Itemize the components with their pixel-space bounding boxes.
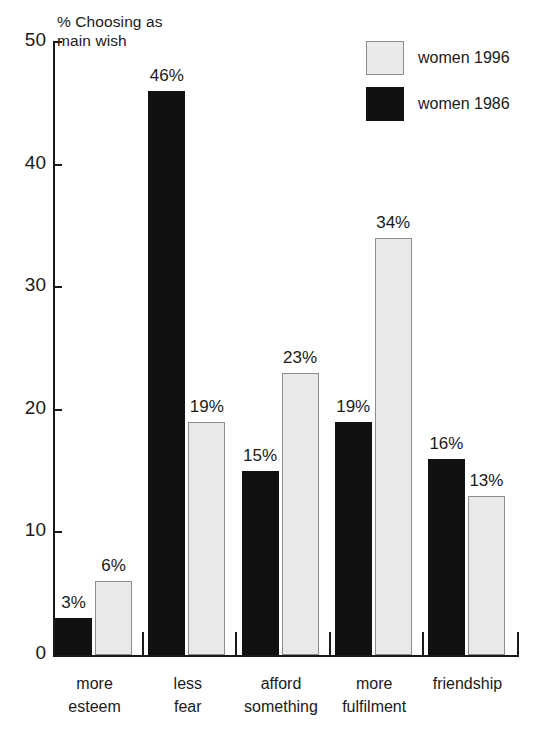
bar-value-label: 15% [243, 446, 277, 466]
legend-item: women 1986 [366, 87, 510, 121]
y-axis-tick-label: 20 [0, 397, 46, 419]
bar-women-1986 [55, 618, 92, 655]
x-axis-category-label: afford something [244, 672, 318, 718]
legend: women 1996women 1986 [366, 41, 510, 133]
bar-value-label: 19% [336, 397, 370, 417]
y-axis-tick-label: 40 [0, 152, 46, 174]
bar-women-1996 [95, 581, 132, 655]
legend-label: women 1986 [418, 95, 510, 113]
y-axis-tick-label: 50 [0, 29, 46, 51]
bar-value-label: 19% [190, 397, 224, 417]
legend-label: women 1996 [418, 49, 510, 67]
y-axis-tick-label: 30 [0, 274, 46, 296]
bar-women-1986 [335, 422, 372, 655]
bar-value-label: 23% [283, 348, 317, 368]
legend-item: women 1996 [366, 41, 510, 75]
y-axis-tick-label: 0 [0, 642, 46, 664]
x-axis-category-label: more fulfilment [342, 672, 406, 718]
bar-women-1986 [242, 471, 279, 655]
x-axis-category-label: friendship [433, 672, 502, 695]
bar-women-1996 [375, 238, 412, 655]
bar-chart: % Choosing as main wish 01020304050 3%6%… [0, 0, 534, 737]
plot-area: 3%6%46%19%15%23%19%34%16%13% [53, 42, 519, 655]
bar-women-1986 [148, 91, 185, 655]
bar-women-1986 [428, 459, 465, 655]
bar-women-1996 [468, 496, 505, 655]
bar-value-label: 34% [376, 213, 410, 233]
bar-women-1996 [282, 373, 319, 655]
bar-value-label: 46% [150, 66, 184, 86]
x-axis-category-label: less fear [174, 672, 202, 718]
x-axis-category-label: more esteem [68, 672, 120, 718]
legend-swatch-light [366, 41, 404, 75]
bar-women-1996 [188, 422, 225, 655]
legend-swatch-dark [366, 87, 404, 121]
bar-value-label: 16% [429, 434, 463, 454]
bar-value-label: 13% [469, 471, 503, 491]
bar-value-label: 3% [61, 593, 86, 613]
y-axis-tick-label: 10 [0, 519, 46, 541]
x-axis-line [53, 655, 519, 657]
bar-value-label: 6% [101, 556, 126, 576]
